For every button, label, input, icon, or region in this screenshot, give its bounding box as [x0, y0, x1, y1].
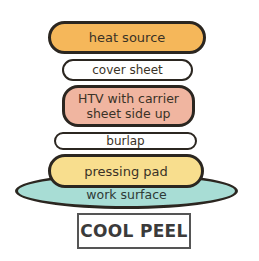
- htv-label-line1: HTV with carrier: [78, 91, 179, 106]
- cool-peel-label: COOL PEEL: [80, 221, 187, 241]
- cool-peel-box: COOL PEEL: [77, 213, 191, 249]
- burlap-layer: burlap: [54, 132, 197, 150]
- burlap-label: burlap: [106, 134, 144, 148]
- pressing-pad-layer: pressing pad: [48, 154, 204, 188]
- heat-source-label: heat source: [89, 30, 166, 45]
- heat-source-layer: heat source: [48, 21, 206, 54]
- pressing-pad-label: pressing pad: [84, 164, 168, 179]
- cover-sheet-layer: cover sheet: [62, 59, 193, 81]
- cover-sheet-label: cover sheet: [92, 63, 163, 77]
- htv-layer: HTV with carrier sheet side up: [62, 85, 195, 127]
- htv-label-line2: sheet side up: [86, 106, 170, 121]
- work-surface-label: work surface: [86, 187, 166, 202]
